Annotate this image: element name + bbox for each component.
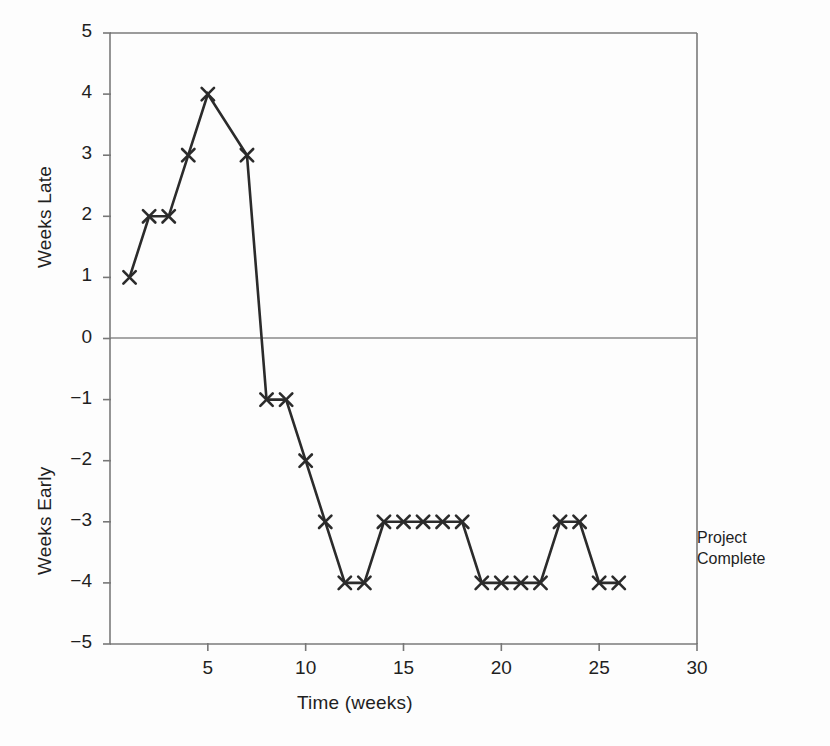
y-tick-label: −4: [52, 570, 92, 592]
x-tick-label: 15: [384, 657, 424, 679]
data-point-marker: [182, 149, 194, 161]
y-tick-label: 5: [52, 20, 92, 42]
y-tick-label: 2: [52, 203, 92, 225]
x-tick-label: 20: [481, 657, 521, 679]
plot-canvas: [0, 0, 830, 746]
y-tick-label: −3: [52, 509, 92, 531]
y-tick-label: 4: [52, 81, 92, 103]
y-tick-label: −1: [52, 387, 92, 409]
data-point-marker: [299, 455, 311, 467]
x-tick-label: 30: [677, 657, 717, 679]
x-tick-label: 25: [579, 657, 619, 679]
x-axis-label: Time (weeks): [297, 692, 413, 714]
y-tick-label: 0: [52, 326, 92, 348]
annotation-project-complete: Project Complete: [697, 527, 765, 569]
data-point-marker: [123, 271, 135, 283]
x-tick-label: 5: [188, 657, 228, 679]
data-point-marker: [202, 88, 214, 100]
tick-marks: [103, 33, 697, 651]
y-tick-label: −2: [52, 448, 92, 470]
chart-figure: Weeks Late Weeks Early Time (weeks) 5432…: [0, 0, 830, 746]
annotation-line-1: Project: [697, 527, 765, 548]
annotation-line-2: Complete: [697, 548, 765, 569]
y-tick-label: 1: [52, 264, 92, 286]
data-point-marker: [319, 516, 331, 528]
y-tick-label: −5: [52, 631, 92, 653]
x-tick-label: 10: [286, 657, 326, 679]
y-tick-label: 3: [52, 142, 92, 164]
